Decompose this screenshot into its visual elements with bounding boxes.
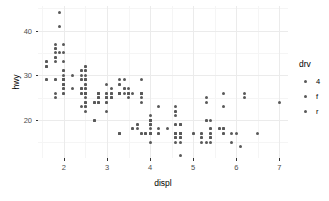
data-point <box>235 132 238 135</box>
data-point <box>157 105 160 108</box>
y-axis-tick-label: 20 <box>14 116 32 125</box>
data-point <box>127 92 130 95</box>
gridline-major-vertical <box>64 6 65 158</box>
data-point <box>62 78 65 81</box>
legend-item-label: 4 <box>316 77 320 86</box>
y-axis-tick-mark <box>36 120 39 121</box>
data-point <box>80 69 83 72</box>
legend: drv 4fr <box>299 59 320 119</box>
gridline-minor-vertical <box>172 6 173 158</box>
data-point <box>127 87 130 90</box>
data-point <box>84 83 87 86</box>
x-axis-tick-mark <box>64 158 65 161</box>
x-axis-tick-label: 3 <box>105 163 109 172</box>
data-point <box>157 127 160 130</box>
data-point <box>179 132 182 135</box>
x-axis-tick-mark <box>193 158 194 161</box>
data-point <box>97 96 100 99</box>
legend-items: 4fr <box>299 74 320 119</box>
plot-panel <box>38 6 288 158</box>
data-point <box>205 96 208 99</box>
data-point <box>45 60 48 63</box>
legend-item-label: f <box>316 92 318 101</box>
data-point <box>93 119 96 122</box>
gridline-minor-horizontal <box>38 142 288 143</box>
gridline-major-vertical <box>193 6 194 158</box>
data-point <box>110 92 113 95</box>
data-point <box>144 132 147 135</box>
data-point <box>45 65 48 68</box>
data-point <box>118 92 121 95</box>
data-point <box>105 92 108 95</box>
x-axis-tick-mark <box>279 158 280 161</box>
y-axis-title: hwy <box>11 74 21 89</box>
x-axis-tick-mark <box>150 158 151 161</box>
legend-key-icon <box>299 90 312 103</box>
data-point <box>192 132 195 135</box>
data-point <box>140 101 143 104</box>
gridline-minor-vertical <box>258 6 259 158</box>
data-point <box>149 114 152 117</box>
data-point <box>110 96 113 99</box>
gridline-major-horizontal <box>38 31 288 32</box>
data-point <box>179 136 182 139</box>
x-axis-tick-label: 5 <box>191 163 195 172</box>
data-point <box>84 96 87 99</box>
x-axis-tick-mark <box>236 158 237 161</box>
data-point <box>174 105 177 108</box>
data-point <box>118 83 121 86</box>
data-point <box>200 136 203 139</box>
data-point <box>71 87 74 90</box>
data-point <box>118 132 121 135</box>
data-point <box>243 96 246 99</box>
data-point <box>58 25 61 28</box>
data-point <box>136 127 139 130</box>
gridline-minor-horizontal <box>38 98 288 99</box>
data-point <box>222 105 225 108</box>
data-point <box>140 78 143 81</box>
data-point <box>105 101 108 104</box>
data-point <box>58 11 61 14</box>
data-point <box>127 96 130 99</box>
data-point <box>209 119 212 122</box>
data-point <box>62 83 65 86</box>
data-point <box>136 123 139 126</box>
data-point <box>140 92 143 95</box>
data-point <box>174 132 177 135</box>
data-point <box>205 101 208 104</box>
data-point <box>62 43 65 46</box>
data-point <box>174 114 177 117</box>
scatter-plot-figure: 203040 234567 displ hwy drv 4fr <box>0 0 329 201</box>
data-point <box>174 110 177 113</box>
data-point <box>84 87 87 90</box>
data-point <box>222 127 225 130</box>
legend-item: 4 <box>299 74 320 89</box>
data-point <box>123 87 126 90</box>
data-point <box>105 110 108 113</box>
data-point <box>54 47 57 50</box>
data-point <box>62 87 65 90</box>
data-point <box>54 78 57 81</box>
gridline-minor-horizontal <box>38 8 288 9</box>
data-point <box>62 69 65 72</box>
data-point <box>84 78 87 81</box>
x-axis-title: displ <box>154 178 171 188</box>
data-point <box>140 96 143 99</box>
legend-item: f <box>299 89 320 104</box>
gridline-minor-vertical <box>129 6 130 158</box>
data-point <box>149 119 152 122</box>
data-point <box>166 127 169 130</box>
gridline-minor-vertical <box>85 6 86 158</box>
data-point <box>200 132 203 135</box>
data-point <box>209 136 212 139</box>
data-point <box>84 92 87 95</box>
data-point <box>149 127 152 130</box>
data-point <box>140 132 143 135</box>
data-point <box>80 78 83 81</box>
legend-key-icon <box>299 75 312 88</box>
data-point <box>230 132 233 135</box>
data-point <box>174 136 177 139</box>
data-point <box>62 92 65 95</box>
data-point <box>278 101 281 104</box>
data-point <box>179 141 182 144</box>
